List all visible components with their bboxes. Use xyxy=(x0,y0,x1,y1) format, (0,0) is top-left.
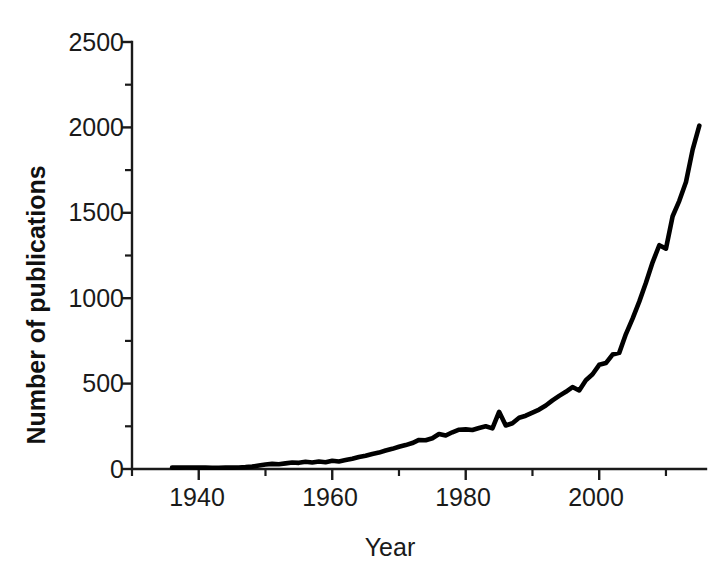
x-tick-label: 1960 xyxy=(302,483,358,511)
data-series-line xyxy=(172,126,699,468)
axis-spines xyxy=(132,42,706,469)
x-axis-title: Year xyxy=(365,533,416,561)
axis-ticks xyxy=(121,42,666,480)
y-tick-label: 2500 xyxy=(68,28,124,56)
y-tick-label: 1000 xyxy=(68,284,124,312)
x-tick-labels: 1940 1960 1980 2000 xyxy=(169,483,624,511)
y-tick-label: 1500 xyxy=(68,198,124,226)
y-axis-title: Number of publications xyxy=(22,165,50,444)
publication-trend-chart: Number of publications Year 2500 2000 15… xyxy=(0,0,721,575)
chart-canvas: Number of publications Year 2500 2000 15… xyxy=(0,0,721,575)
x-tick-label: 1940 xyxy=(169,483,225,511)
y-tick-labels: 2500 2000 1500 1000 500 0 xyxy=(68,28,124,483)
x-tick-label: 2000 xyxy=(568,483,624,511)
y-tick-label: 500 xyxy=(82,369,124,397)
y-tick-label: 2000 xyxy=(68,113,124,141)
x-tick-label: 1980 xyxy=(435,483,491,511)
